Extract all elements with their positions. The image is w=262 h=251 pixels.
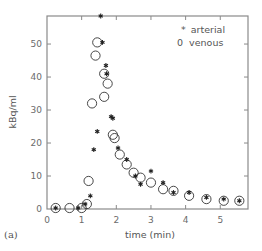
legend-label-arterial: arterial [191,24,225,35]
venous-point [84,176,93,185]
venous-point [110,133,119,142]
panel-label: (a) [4,229,18,240]
y-tick-label: 10 [31,171,43,181]
legend-marker-venous: 0 [177,37,183,48]
venous-point [136,173,145,182]
venous-point [82,199,91,208]
arterial-point [138,182,142,187]
venous-series [51,38,244,213]
y-axis-title: kBq/ml [7,95,18,128]
y-tick-label: 40 [31,72,43,82]
tick-labels: 01234501020304050 [31,39,224,225]
venous-point [146,178,155,187]
x-axis-title: time (min) [125,229,175,240]
legend-entry-venous: 0 venous [177,37,223,48]
y-tick-label: 0 [36,204,42,214]
venous-point [91,51,100,60]
x-tick-label: 4 [183,215,189,225]
arterial-point [161,180,165,185]
legend-entry-arterial: * arterial [181,24,225,35]
x-tick-label: 2 [113,215,119,225]
venous-point [158,185,167,194]
arterial-point [104,63,108,68]
venous-point [115,150,124,159]
y-tick-label: 50 [31,39,43,49]
legend: * arterial 0 venous [177,24,225,48]
x-tick-label: 0 [44,215,50,225]
scatter-chart: 01234501020304050 kBq/ml time (min) (a) … [0,0,262,251]
venous-point [87,99,96,108]
arterial-point [92,147,96,152]
arterial-point [95,129,99,134]
y-tick-label: 20 [31,138,43,148]
venous-point [65,203,74,212]
arterial-point [149,169,153,174]
venous-point [103,79,112,88]
legend-marker-arterial: * [181,24,186,35]
x-tick-label: 5 [217,215,223,225]
x-tick-label: 1 [79,215,85,225]
y-tick-label: 30 [31,105,43,115]
legend-label-venous: venous [189,37,223,48]
x-tick-label: 3 [148,215,154,225]
venous-point [100,92,109,101]
arterial-point [88,193,92,198]
venous-point [93,38,102,47]
